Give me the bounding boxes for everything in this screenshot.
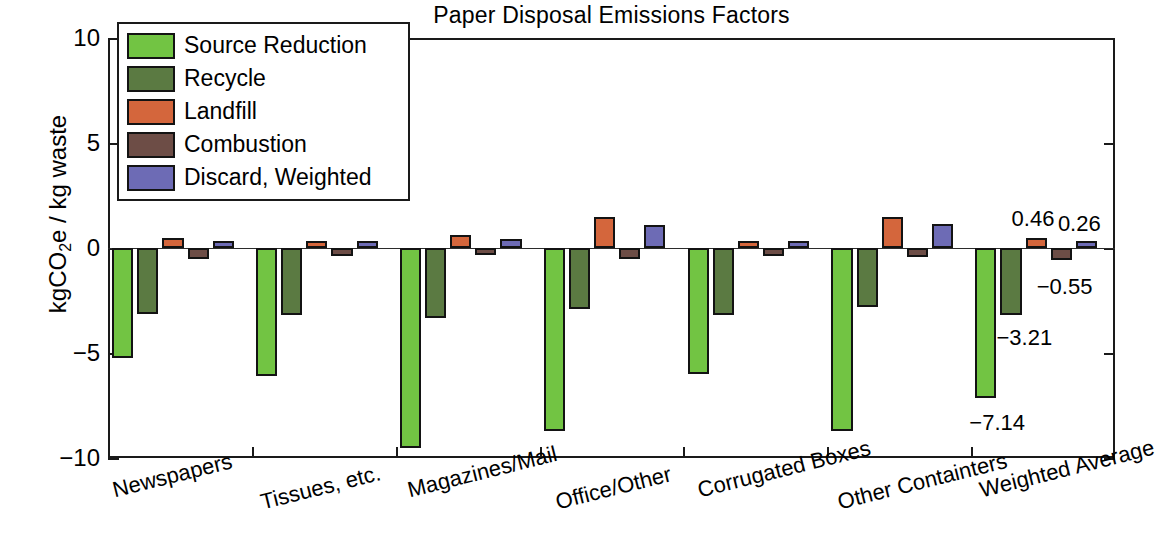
bar bbox=[331, 248, 352, 256]
bar bbox=[594, 217, 615, 248]
bar-value-label: 0.46 bbox=[1012, 208, 1055, 230]
y-axis-tick-mark bbox=[1104, 353, 1115, 355]
x-axis-tick-mark bbox=[252, 447, 254, 458]
x-axis-category-label: Tissues, etc. bbox=[258, 460, 383, 515]
bar bbox=[112, 248, 133, 358]
bar bbox=[281, 248, 302, 315]
legend-color-swatch bbox=[127, 165, 175, 191]
legend-color-swatch bbox=[127, 33, 175, 59]
y-axis-tick-mark bbox=[1104, 38, 1115, 40]
legend-color-swatch bbox=[127, 132, 175, 158]
bar-value-label: −7.14 bbox=[969, 412, 1025, 434]
bar bbox=[713, 248, 734, 315]
legend-item-label: Source Reduction bbox=[184, 34, 367, 57]
bar bbox=[857, 248, 878, 307]
legend[interactable]: Source ReductionRecycleLandfillCombustio… bbox=[117, 22, 410, 201]
bar bbox=[188, 248, 209, 259]
legend-item-source-reduction[interactable]: Source Reduction bbox=[127, 29, 401, 62]
x-axis-tick-mark bbox=[396, 447, 398, 458]
bar bbox=[688, 248, 709, 374]
legend-color-swatch bbox=[127, 66, 175, 92]
bar bbox=[213, 241, 234, 248]
bar bbox=[137, 248, 158, 314]
bar bbox=[450, 235, 471, 248]
bar bbox=[162, 238, 183, 248]
y-axis-tick-mark bbox=[1104, 143, 1115, 145]
y-axis-tick-label: 5 bbox=[36, 131, 100, 155]
bar bbox=[1000, 248, 1021, 315]
x-axis-tick-mark bbox=[683, 447, 685, 458]
legend-item-landfill[interactable]: Landfill bbox=[127, 95, 401, 128]
bar bbox=[544, 248, 565, 431]
y-axis-label-pre: kgCO bbox=[44, 252, 71, 313]
bar-value-label: 0.26 bbox=[1058, 213, 1101, 235]
y-axis-tick-label: −5 bbox=[36, 341, 100, 365]
legend-item-label: Landfill bbox=[184, 100, 257, 123]
legend-item-label: Combustion bbox=[184, 133, 307, 156]
legend-item-discard-weighted[interactable]: Discard, Weighted bbox=[127, 161, 401, 194]
bar bbox=[306, 241, 327, 248]
bar bbox=[644, 225, 665, 248]
legend-item-combustion[interactable]: Combustion bbox=[127, 128, 401, 161]
bar bbox=[831, 248, 852, 431]
bar bbox=[932, 224, 953, 248]
bar bbox=[1051, 248, 1072, 260]
legend-item-recycle[interactable]: Recycle bbox=[127, 62, 401, 95]
bar bbox=[500, 239, 521, 248]
legend-color-swatch bbox=[127, 99, 175, 125]
legend-item-label: Discard, Weighted bbox=[184, 166, 372, 189]
bar bbox=[400, 248, 421, 448]
bar bbox=[569, 248, 590, 309]
y-axis-tick-label: 0 bbox=[36, 236, 100, 260]
bar bbox=[256, 248, 277, 376]
bar bbox=[425, 248, 446, 318]
y-axis-tick-mark bbox=[108, 458, 119, 460]
bar-value-label: −0.55 bbox=[1037, 276, 1093, 298]
bar bbox=[975, 248, 996, 398]
bar bbox=[619, 248, 640, 259]
bar bbox=[763, 248, 784, 256]
x-axis-category-label: Office/Other bbox=[553, 461, 674, 515]
y-axis-tick-label: 10 bbox=[36, 26, 100, 50]
bar bbox=[1076, 241, 1097, 248]
bar bbox=[882, 217, 903, 249]
bar bbox=[788, 241, 809, 248]
y-axis-tick-label: −10 bbox=[36, 446, 100, 470]
bar bbox=[1026, 238, 1047, 248]
bar bbox=[738, 241, 759, 248]
bar bbox=[357, 241, 378, 248]
legend-item-label: Recycle bbox=[184, 67, 266, 90]
bar bbox=[907, 248, 928, 257]
bar bbox=[475, 248, 496, 255]
bar-value-label: −3.21 bbox=[996, 327, 1052, 349]
